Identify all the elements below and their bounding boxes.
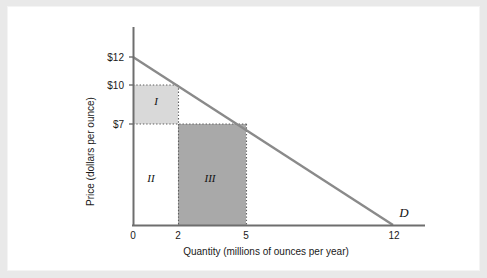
region-label-II: II <box>147 172 154 184</box>
region-label-III: III <box>205 172 216 184</box>
y-tick-label-12: $12 <box>96 52 124 63</box>
y-tick-label-7: $7 <box>96 119 124 130</box>
figure-container: $12 $10 $7 0 2 5 12 I II III D Price (do… <box>0 0 487 278</box>
x-tick-label-2: 2 <box>175 230 181 241</box>
x-tick-label-12: 12 <box>388 230 399 241</box>
x-axis-title: Quantity (millions of ounces per year) <box>183 246 349 257</box>
x-tick-label-0: 0 <box>130 230 136 241</box>
region-label-I: I <box>154 95 158 107</box>
y-axis-title: Price (dollars per ounce) <box>85 97 96 206</box>
region-II-rect <box>133 124 178 225</box>
demand-curve-label: D <box>399 205 408 221</box>
x-tick-label-5: 5 <box>243 230 249 241</box>
y-tick-label-10: $10 <box>96 80 124 91</box>
